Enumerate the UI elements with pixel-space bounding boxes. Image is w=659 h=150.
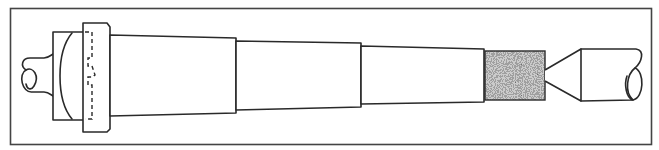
diagram-svg xyxy=(0,0,659,150)
right-shaft xyxy=(581,49,642,101)
collet xyxy=(53,32,85,120)
cone-point xyxy=(545,49,581,101)
flange xyxy=(83,23,110,132)
diagram-stage xyxy=(0,0,659,150)
spindle-section-1 xyxy=(110,35,236,116)
left-shaft xyxy=(22,54,53,96)
abrasive-wheel xyxy=(485,51,545,100)
spindle-section-2 xyxy=(236,41,361,110)
spindle-section-3 xyxy=(361,46,484,104)
